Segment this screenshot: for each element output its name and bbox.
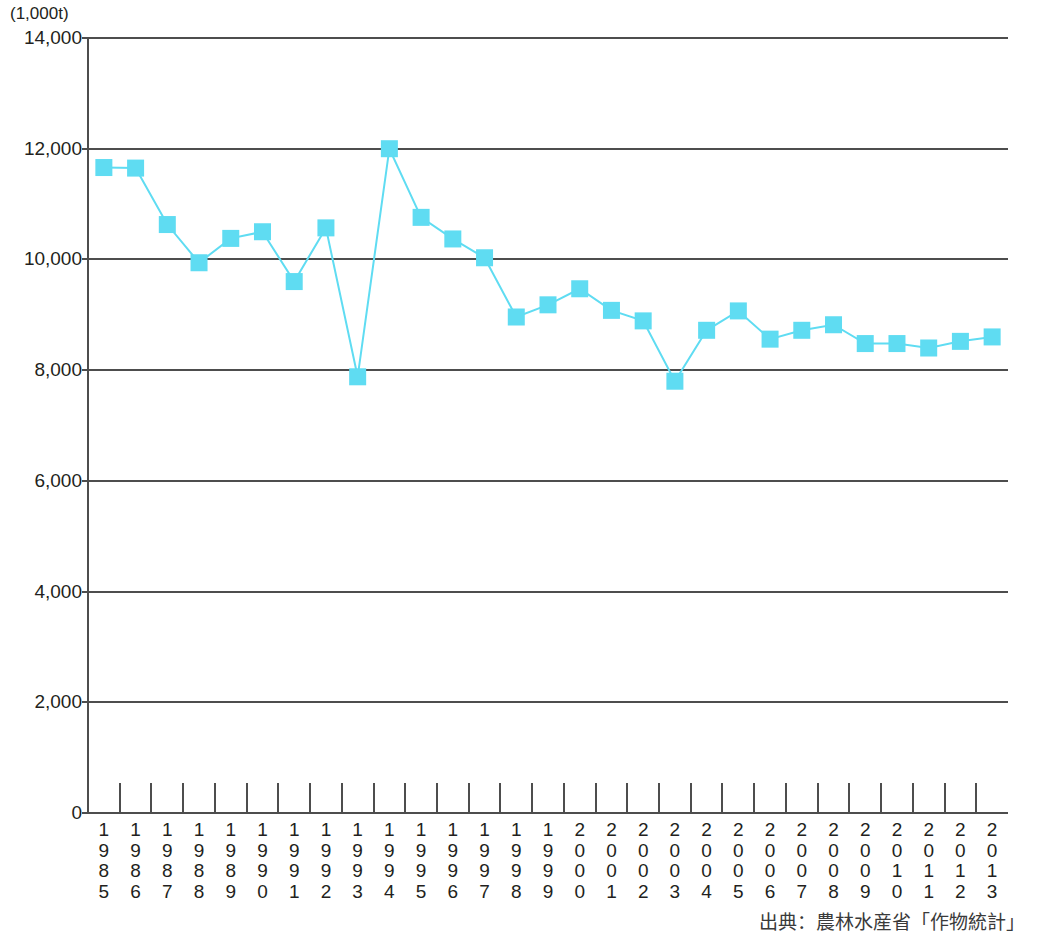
gridline [88,148,1008,150]
x-axis-tick [880,783,882,814]
x-axis-tick-label: 2002 [628,820,658,902]
data-point-marker [730,302,747,319]
y-axis-tick-label: 6,000 [6,471,82,490]
y-axis-tick-label: 10,000 [6,249,82,268]
data-point-marker [413,209,430,226]
x-axis-tick-label: 1998 [501,820,531,902]
gridline [88,369,1008,371]
y-axis-tick [82,369,89,371]
x-axis-tick-label: 2013 [977,820,1007,902]
data-point-marker [825,316,842,333]
x-axis-tick-label: 2009 [850,820,880,902]
data-point-marker [127,160,144,177]
x-axis-tick-label: 2007 [787,820,817,902]
y-axis-labels: 02,0004,0006,0008,00010,00012,00014,000 [0,0,82,940]
source-note: 出典：農林水産省「作物統計」 [759,907,1025,934]
y-axis-tick [82,812,89,814]
x-axis-tick-label: 1992 [311,820,341,902]
gridline [88,37,1008,39]
y-axis-line [87,37,89,814]
data-series-layer [0,0,1041,940]
x-axis-tick [150,783,152,814]
x-axis-tick [912,783,914,814]
x-axis-tick [690,783,692,814]
x-axis-tick-label: 1996 [438,820,468,902]
data-point-marker [698,322,715,339]
x-axis-tick [531,783,533,814]
y-axis-tick [82,258,89,260]
x-axis-tick-label: 1988 [184,820,214,902]
x-axis-tick-label: 2005 [723,820,753,902]
data-point-marker [635,312,652,329]
x-axis-tick-label: 1987 [152,820,182,902]
x-axis-tick-label: 1991 [279,820,309,902]
x-axis-tick [563,783,565,814]
x-axis-tick [119,783,121,814]
data-point-marker [95,159,112,176]
x-axis-tick [214,783,216,814]
gridline [88,258,1008,260]
x-axis-tick-label: 2006 [755,820,785,902]
x-axis-tick-label: 1993 [343,820,373,902]
x-axis-tick-label: 2001 [596,820,626,902]
x-axis-tick [753,783,755,814]
y-axis-tick-label: 8,000 [6,360,82,379]
x-axis-tick-label: 2008 [819,820,849,902]
data-point-marker [920,340,937,357]
x-axis-tick [404,783,406,814]
x-axis-tick [595,783,597,814]
data-point-marker [952,333,969,350]
x-axis-tick [944,783,946,814]
x-axis-tick-label: 2004 [692,820,722,902]
gridline [88,480,1008,482]
x-axis-tick-label: 1995 [406,820,436,902]
x-axis-tick [658,783,660,814]
x-axis-tick-label: 2010 [882,820,912,902]
x-axis-tick-label: 1990 [247,820,277,902]
x-axis-tick [975,783,977,814]
data-point-marker [159,216,176,233]
data-point-marker [603,302,620,319]
y-axis-tick [82,37,89,39]
y-axis-tick-label: 12,000 [6,139,82,158]
y-axis-tick-label: 0 [6,803,82,822]
x-axis-tick-label: 1999 [533,820,563,902]
x-axis-tick-label: 2000 [565,820,595,902]
x-axis-tick [468,783,470,814]
x-axis-tick-label: 1989 [216,820,246,902]
gridline [88,701,1008,703]
y-axis-tick-label: 14,000 [6,28,82,47]
data-point-marker [762,331,779,348]
data-point-marker [222,230,239,247]
data-point-marker [444,230,461,247]
x-axis-tick [817,783,819,814]
series-line [104,149,992,381]
y-axis-tick [82,480,89,482]
x-axis-tick-label: 1997 [470,820,500,902]
data-point-marker [317,219,334,236]
data-point-marker [857,335,874,352]
x-axis-tick [721,783,723,814]
x-axis-tick [277,783,279,814]
x-axis-tick [436,783,438,814]
x-axis-tick [785,783,787,814]
x-axis-tick [848,783,850,814]
data-point-marker [888,335,905,352]
data-point-marker [508,309,525,326]
data-point-marker [793,322,810,339]
x-axis-tick [309,783,311,814]
data-point-marker [254,223,271,240]
x-axis-tick-label: 2012 [945,820,975,902]
x-axis-tick-label: 2011 [914,820,944,902]
data-point-marker [984,328,1001,345]
data-point-marker [286,273,303,290]
x-axis-tick [182,783,184,814]
gridline [88,591,1008,593]
data-point-marker [666,373,683,390]
x-axis-tick [246,783,248,814]
y-axis-tick-label: 2,000 [6,692,82,711]
x-axis-line [88,812,1008,814]
data-point-marker [571,280,588,297]
y-axis-tick [82,591,89,593]
rice-production-line-chart: (1,000t) 02,0004,0006,0008,00010,00012,0… [0,0,1041,940]
